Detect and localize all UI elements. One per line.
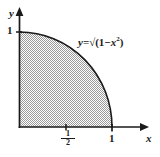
fraction-denominator: 2 [61, 139, 75, 147]
x-axis-label: x [146, 133, 152, 144]
y-axis-label: y [9, 8, 14, 19]
quarter-circle-plot [0, 0, 160, 157]
equation-close-paren: ) [120, 36, 124, 48]
figure-container: y x 1 1 2 1 y=√(1−x2) [0, 0, 160, 157]
x-tick-label-half: 1 2 [61, 130, 75, 148]
equation-radical: √(1− [89, 36, 110, 48]
x-axis-arrowhead [140, 123, 149, 131]
y-axis-arrowhead [16, 7, 24, 16]
y-tick-label-one: 1 [7, 25, 13, 36]
curve-equation-label: y=√(1−x2) [78, 37, 123, 48]
x-tick-label-one: 1 [109, 133, 115, 144]
